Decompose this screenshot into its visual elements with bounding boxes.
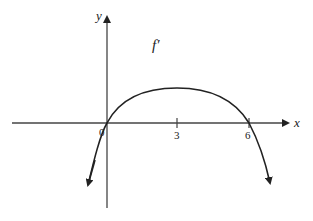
derivative-graph: y x f′ 0 3 6 xyxy=(0,0,313,221)
tick-label-6: 6 xyxy=(245,129,251,141)
tick-label-3: 3 xyxy=(174,129,180,141)
origin-label: 0 xyxy=(99,126,105,138)
f-prime-curve-left-end xyxy=(88,160,95,185)
x-axis-label: x xyxy=(293,115,300,130)
y-axis-label: y xyxy=(94,8,102,23)
function-label: f′ xyxy=(152,37,160,53)
